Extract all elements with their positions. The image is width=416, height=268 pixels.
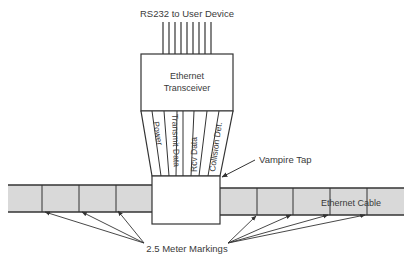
transceiver-label-line1: Ethernet — [170, 71, 205, 81]
ethernet-cable-label: Ethernet Cable — [321, 198, 381, 208]
vampire-tap-label: Vampire Tap — [259, 154, 311, 165]
signal-bundle: Power Transmit Data Rcv Data Collision D… — [141, 111, 233, 176]
markings-label: 2.5 Meter Markings — [146, 243, 228, 254]
rs232-wires — [163, 22, 211, 54]
vampire-tap-arrow — [222, 160, 255, 177]
signal-rcv-data: Rcv Data — [189, 137, 199, 172]
transceiver-label-line2: Transceiver — [164, 83, 211, 93]
ethernet-transceiver-diagram: RS232 to User Device Ethernet Transceive… — [0, 0, 416, 268]
vampire-tap-box — [152, 176, 220, 224]
rs232-label: RS232 to User Device — [140, 8, 234, 19]
signal-transmit-data: Transmit Data — [170, 114, 182, 168]
